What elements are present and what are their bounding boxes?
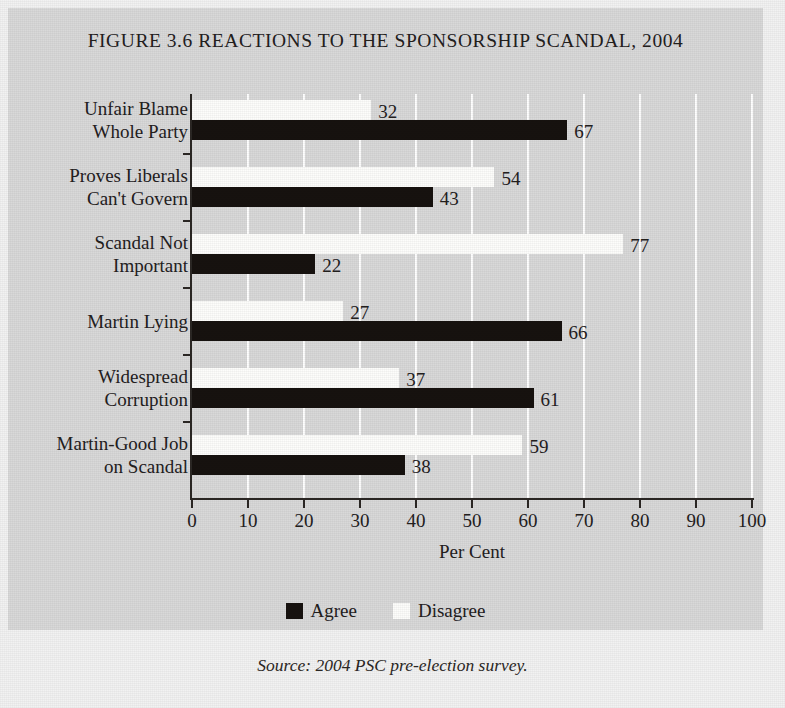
bar-value-disagree: 32: [378, 102, 397, 122]
x-tick-40: [415, 500, 417, 508]
y-tick-1: [183, 153, 192, 155]
x-tick-label-10: 10: [239, 510, 258, 532]
bar-value-disagree: 77: [630, 236, 649, 256]
bar-value-agree: 38: [412, 457, 431, 477]
y-tick-2: [183, 220, 192, 222]
gridline-100: [751, 94, 753, 498]
x-tick-0: [191, 500, 193, 508]
category-label-1: Unfair BlameWhole Party: [16, 97, 188, 143]
x-tick-label-50: 50: [463, 510, 482, 532]
bar-disagree: [192, 167, 494, 187]
bar-agree: [192, 187, 433, 207]
category-label-line: Martin-Good Job: [16, 432, 188, 455]
bar-agree: [192, 321, 562, 341]
category-label-line: Proves Liberals: [16, 164, 188, 187]
category-label-4: Martin Lying: [16, 310, 188, 333]
category-label-line: Corruption: [16, 388, 188, 411]
x-tick-80: [639, 500, 641, 508]
bar-value-agree: 43: [440, 189, 459, 209]
bar-value-agree: 67: [574, 122, 593, 142]
legend-item-disagree: Disagree: [393, 600, 486, 622]
bar-disagree: [192, 435, 522, 455]
x-tick-70: [583, 500, 585, 508]
category-axis-labels: Unfair BlameWhole PartyProves LiberalsCa…: [8, 0, 188, 520]
legend-swatch-agree: [286, 603, 303, 619]
x-tick-10: [247, 500, 249, 508]
x-tick-label-100: 100: [738, 510, 767, 532]
category-label-line: on Scandal: [16, 455, 188, 478]
category-label-line: Martin Lying: [16, 310, 188, 333]
bar-value-disagree: 54: [501, 169, 520, 189]
x-tick-label-0: 0: [187, 510, 197, 532]
plot-area: 326754437722276637615938: [192, 94, 752, 498]
x-tick-90: [695, 500, 697, 508]
category-label-5: WidespreadCorruption: [16, 365, 188, 411]
bar-agree: [192, 120, 567, 140]
category-label-line: Unfair Blame: [16, 97, 188, 120]
bar-disagree: [192, 100, 371, 120]
x-tick-30: [359, 500, 361, 508]
x-tick-50: [471, 500, 473, 508]
category-label-line: Can't Govern: [16, 187, 188, 210]
x-tick-60: [527, 500, 529, 508]
category-label-line: Whole Party: [16, 120, 188, 143]
category-label-line: Scandal Not: [16, 231, 188, 254]
y-tick-5: [183, 421, 192, 423]
bar-agree: [192, 388, 534, 408]
bar-disagree: [192, 368, 399, 388]
y-tick-4: [183, 354, 192, 356]
x-tick-label-40: 40: [407, 510, 426, 532]
bar-value-disagree: 37: [406, 370, 425, 390]
x-tick-label-80: 80: [631, 510, 650, 532]
x-tick-label-30: 30: [351, 510, 370, 532]
x-tick-label-60: 60: [519, 510, 538, 532]
category-label-2: Proves LiberalsCan't Govern: [16, 164, 188, 210]
category-label-line: Widespread: [16, 365, 188, 388]
category-label-line: Important: [16, 254, 188, 277]
legend-swatch-disagree: [393, 603, 410, 619]
x-tick-20: [303, 500, 305, 508]
legend-label-agree: Agree: [311, 600, 357, 622]
bar-disagree: [192, 301, 343, 321]
x-tick-label-70: 70: [575, 510, 594, 532]
gridline-90: [695, 94, 697, 498]
chart-legend: AgreeDisagree: [8, 600, 763, 622]
legend-label-disagree: Disagree: [418, 600, 486, 622]
category-label-3: Scandal NotImportant: [16, 231, 188, 277]
x-tick-label-90: 90: [687, 510, 706, 532]
x-tick-100: [751, 500, 753, 508]
bar-value-disagree: 59: [529, 437, 548, 457]
bar-value-agree: 66: [569, 323, 588, 343]
category-label-6: Martin-Good Jobon Scandal: [16, 432, 188, 478]
source-note: Source: 2004 PSC pre-election survey.: [0, 655, 785, 676]
x-axis-title: Per Cent: [192, 541, 752, 563]
bar-value-disagree: 27: [350, 303, 369, 323]
bar-value-agree: 22: [322, 256, 341, 276]
legend-item-agree: Agree: [286, 600, 357, 622]
bar-value-agree: 61: [541, 390, 560, 410]
bar-disagree: [192, 234, 623, 254]
gridline-80: [639, 94, 641, 498]
bar-agree: [192, 254, 315, 274]
gridline-70: [583, 94, 585, 498]
bar-agree: [192, 455, 405, 475]
x-tick-label-20: 20: [295, 510, 314, 532]
y-tick-3: [183, 287, 192, 289]
